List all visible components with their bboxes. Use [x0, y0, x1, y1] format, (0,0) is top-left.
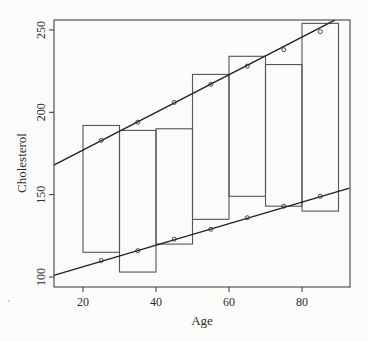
plot-frame — [54, 20, 350, 287]
x-axis-label: Age — [191, 313, 213, 328]
y-axis: 100150200250 — [34, 21, 54, 286]
data-point — [282, 48, 286, 52]
x-axis: 20406080 — [77, 287, 308, 309]
regression-line — [54, 20, 335, 165]
chart: 20406080 100150200250 Age Cholesterol — [0, 0, 368, 341]
y-tick-label: 150 — [34, 186, 48, 204]
x-tick-label: 60 — [223, 295, 235, 309]
scan-speck — [8, 300, 10, 302]
range-box — [229, 56, 266, 196]
y-tick-label: 100 — [34, 268, 48, 286]
range-box — [193, 74, 230, 219]
regression-line — [54, 188, 350, 275]
regression-lines — [54, 20, 350, 275]
range-box — [302, 23, 339, 211]
x-tick-label: 40 — [150, 295, 162, 309]
range-box — [156, 129, 193, 244]
range-box — [266, 65, 303, 207]
range-boxes — [83, 23, 339, 272]
data-point — [318, 30, 322, 34]
y-tick-label: 250 — [34, 21, 48, 39]
y-axis-label: Cholesterol — [14, 133, 29, 193]
x-tick-label: 80 — [296, 295, 308, 309]
x-tick-label: 20 — [77, 295, 89, 309]
y-tick-label: 200 — [34, 103, 48, 121]
range-box — [83, 125, 120, 252]
